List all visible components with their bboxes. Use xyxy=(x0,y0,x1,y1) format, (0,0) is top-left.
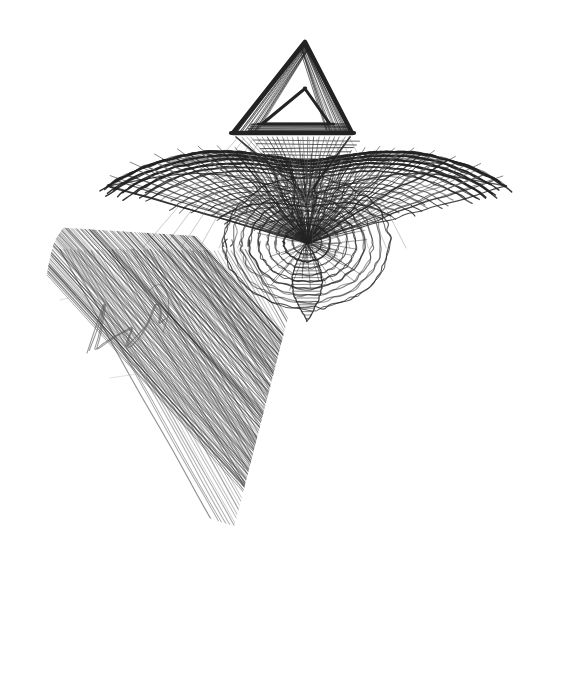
drawing-canvas: Scallop Shell with Triangular Finial gra… xyxy=(0,0,587,692)
paper-background xyxy=(0,0,587,692)
scallop-shell-illustration xyxy=(0,0,587,692)
